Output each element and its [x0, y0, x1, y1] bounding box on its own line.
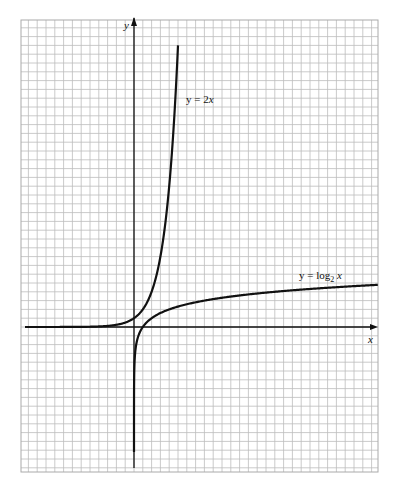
logarithm-curve	[134, 285, 378, 452]
axes	[25, 17, 378, 468]
exponential-curve-label: y = 2x	[186, 93, 214, 105]
logarithm-curve-label: y = log2 x	[299, 269, 342, 281]
grid-paper	[21, 20, 378, 472]
x-axis-label: x	[368, 333, 373, 345]
y-axis-label: y	[124, 19, 129, 31]
graph-canvas	[0, 0, 398, 502]
